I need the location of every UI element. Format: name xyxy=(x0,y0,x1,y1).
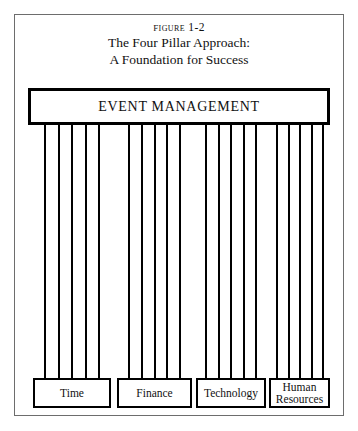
pillar xyxy=(243,125,245,378)
figure-number: Figure 1-2 xyxy=(24,20,334,34)
pillar-group-2 xyxy=(128,125,181,378)
pillar xyxy=(154,125,156,378)
pillar xyxy=(166,125,168,378)
pillar xyxy=(230,125,232,378)
pillar xyxy=(322,125,324,378)
base-box-label: Technology xyxy=(204,387,258,400)
base-box-human-resources: Human Resources xyxy=(269,378,330,408)
pillar xyxy=(179,125,181,378)
pillar-group-1 xyxy=(44,125,100,378)
pillar xyxy=(128,125,130,378)
pillar xyxy=(205,125,207,378)
base-box-technology: Technology xyxy=(196,378,266,408)
pillar xyxy=(299,125,301,378)
event-management-label: EVENT MANAGEMENT xyxy=(98,99,259,115)
pillar-group-4 xyxy=(276,125,324,378)
base-box-label: Human Resources xyxy=(276,381,323,406)
base-box-label: Finance xyxy=(136,387,172,400)
pillar xyxy=(44,125,46,378)
pillar xyxy=(58,125,60,378)
base-boxes-layer: TimeFinanceTechnologyHuman Resources xyxy=(0,378,358,412)
base-box-label: Time xyxy=(60,387,84,400)
base-box-finance: Finance xyxy=(117,378,192,408)
event-management-box: EVENT MANAGEMENT xyxy=(28,88,330,125)
pillar xyxy=(98,125,100,378)
figure-title-line-2: A Foundation for Success xyxy=(24,51,334,68)
pillar xyxy=(276,125,278,378)
base-box-time: Time xyxy=(33,378,111,408)
pillar xyxy=(85,125,87,378)
pillar xyxy=(218,125,220,378)
figure-title-line-1: The Four Pillar Approach: xyxy=(24,34,334,51)
figure-caption: Figure 1-2 The Four Pillar Approach: A F… xyxy=(24,20,334,68)
pillar xyxy=(71,125,73,378)
pillar xyxy=(255,125,257,378)
figure-page: Figure 1-2 The Four Pillar Approach: A F… xyxy=(0,0,358,431)
pillar xyxy=(141,125,143,378)
pillar-group-3 xyxy=(205,125,257,378)
pillar xyxy=(288,125,290,378)
pillar xyxy=(311,125,313,378)
pillars-layer xyxy=(0,125,358,378)
